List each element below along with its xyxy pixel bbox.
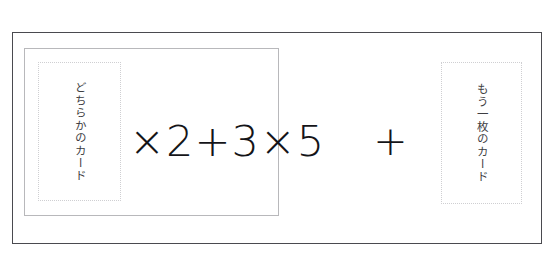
card-slot-right-label: もう一枚のカード <box>476 83 488 183</box>
card-slot-right[interactable]: もう一枚のカード <box>441 62 522 204</box>
card-slot-left-label: どちらかのカード <box>74 82 86 182</box>
formula-expression: ×2+3×5 <box>129 120 325 163</box>
formula-row: ×2+3×5 + <box>129 111 429 171</box>
card-slot-left[interactable]: どちらかのカード <box>38 62 121 201</box>
outer-frame: どちらかのカード ×2+3×5 + もう一枚のカード <box>12 32 542 244</box>
formula-trailing-plus-operator: + <box>373 121 408 162</box>
